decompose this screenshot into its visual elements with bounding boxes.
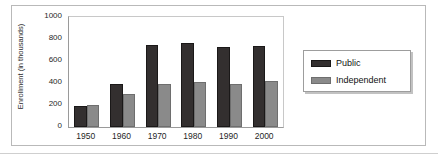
bar-group [146, 17, 171, 127]
bar-public-1970 [146, 45, 159, 128]
legend-swatch-independent-icon [311, 77, 331, 84]
bar-public-2000 [253, 46, 266, 127]
bar-public-1980 [181, 43, 194, 127]
page-divider [0, 153, 438, 154]
bar-public-1990 [217, 47, 230, 127]
bar-group [181, 17, 206, 127]
bar-public-1960 [110, 84, 123, 127]
y-axis-tick-label: 0 [28, 122, 62, 130]
bar-public-1950 [74, 106, 87, 127]
bar-group [74, 17, 99, 127]
y-axis-tick-label: 800 [28, 34, 62, 42]
plot-area [68, 16, 284, 128]
x-axis-tick-label: 1950 [66, 131, 106, 141]
y-axis-tick-label: 1000 [28, 12, 62, 20]
bar-independent-1980 [194, 82, 207, 127]
bar-independent-1950 [87, 105, 100, 127]
legend-item-public: Public [311, 56, 361, 70]
bar-group [110, 17, 135, 127]
legend-item-independent: Independent [311, 73, 386, 87]
bar-independent-1990 [230, 84, 243, 127]
bar-independent-2000 [265, 81, 278, 127]
x-axis-tick-label: 2000 [244, 131, 284, 141]
legend-label-independent: Independent [336, 75, 386, 85]
bar-group [253, 17, 278, 127]
bar-independent-1960 [123, 94, 136, 127]
chart-figure: Enrollment (in thousands) 02004006008001… [0, 0, 438, 162]
y-axis-tick-label: 200 [28, 100, 62, 108]
legend-swatch-public-icon [311, 60, 331, 67]
legend-label-public: Public [336, 58, 361, 68]
y-axis-tick-label: 400 [28, 78, 62, 86]
y-axis-tick-label: 600 [28, 56, 62, 64]
y-axis-title: Enrollment (in thousands) [16, 2, 25, 132]
bar-group [217, 17, 242, 127]
x-axis-tick-label: 1980 [173, 131, 213, 141]
x-axis-tick-label: 1990 [209, 131, 249, 141]
chart-legend: Public Independent [303, 50, 411, 92]
x-axis-tick-label: 1960 [102, 131, 142, 141]
bar-independent-1970 [158, 84, 171, 127]
x-axis-tick-label: 1970 [137, 131, 177, 141]
